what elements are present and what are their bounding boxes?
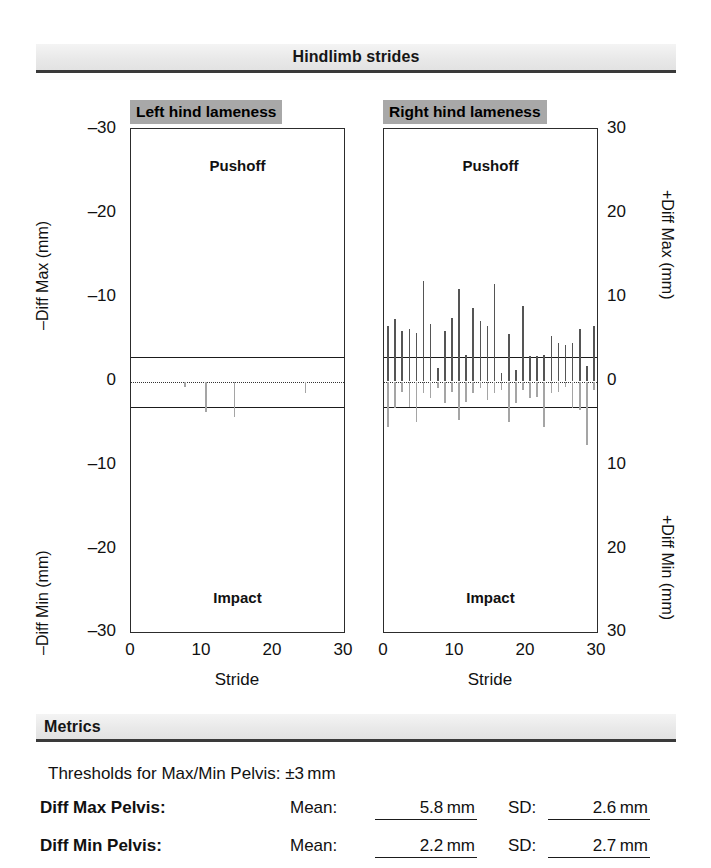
stem-diff-min: [515, 382, 517, 404]
stem-diff-max: [458, 289, 460, 381]
stem-diff-max: [501, 373, 503, 381]
xlabel-left-30: 30: [323, 640, 363, 660]
threshold-line-upper-left: [131, 357, 344, 358]
stem-diff-max: [480, 321, 482, 381]
panel-title-left: Left hind lameness: [130, 100, 282, 124]
stem-diff-min: [430, 382, 432, 399]
ylabel-left--20: –20: [58, 202, 116, 222]
ylabel-left-0: 0: [58, 370, 116, 390]
metrics-sd-label-max: SD:: [508, 798, 536, 818]
stem-diff-max: [444, 331, 446, 381]
stem-diff-max: [465, 355, 467, 382]
ylabel-right-20: 20: [607, 202, 657, 222]
stem-diff-min: [184, 382, 186, 387]
ytick-left: [130, 550, 131, 551]
metrics-value: 2.2 mm: [375, 836, 477, 858]
stem-diff-max: [401, 331, 403, 381]
ytick-right: [597, 407, 598, 408]
stem-diff-max: [529, 356, 531, 381]
stem-diff-max: [593, 326, 595, 381]
stem-diff-min: [458, 382, 460, 420]
stem-diff-max: [409, 329, 411, 381]
ylabel-right-min-20: 20: [607, 538, 657, 558]
ytick-left: [130, 214, 131, 215]
xtick-right: [456, 632, 457, 633]
metrics-row-diff-max: Diff Max Pelvis:: [40, 798, 166, 818]
metrics-mean-label-min: Mean:: [290, 836, 337, 856]
ytick-right: [597, 214, 598, 215]
metrics-mean-value-max: 5.8 mm: [375, 798, 477, 820]
ylabel-right-30: 30: [607, 118, 657, 138]
ytick-right: [597, 357, 598, 358]
metrics-mean-label-max: Mean:: [290, 798, 337, 818]
ylabel-right-0: 0: [607, 370, 657, 390]
page-title: Hindlimb strides: [293, 48, 420, 66]
metrics-row-label: Diff Max Pelvis:: [40, 798, 166, 817]
zone-label-pushoff-left: Pushoff: [131, 157, 344, 174]
stem-diff-min: [579, 382, 581, 410]
ylabel-left-min-10: –10: [58, 454, 116, 474]
xtick-right: [598, 632, 599, 633]
stem-diff-max: [515, 370, 517, 382]
stem-diff-min: [437, 382, 439, 389]
stem-diff-min: [487, 382, 489, 400]
stem-diff-min: [536, 382, 538, 397]
stem-diff-min: [394, 382, 396, 409]
metrics-value: 2.7 mm: [548, 836, 650, 858]
stem-diff-min: [480, 382, 482, 389]
stem-diff-min: [451, 382, 453, 392]
stem-diff-min: [501, 382, 503, 390]
plot-right-hind: Pushoff Impact: [383, 128, 598, 633]
metrics-sd-value-max: 2.6 mm: [548, 798, 650, 820]
stem-diff-min: [423, 382, 425, 394]
ytick-left: [130, 298, 131, 299]
axis-title-stride-left: Stride: [187, 670, 287, 690]
stem-diff-min: [444, 382, 446, 404]
ytick-left: [130, 382, 131, 383]
ylabel-right-min-10: 10: [607, 454, 657, 474]
metrics-sd-label-min: SD:: [508, 836, 536, 856]
stem-diff-max: [487, 326, 489, 381]
plot-left-hind: Pushoff Impact: [130, 128, 345, 633]
xtick-left: [274, 632, 275, 633]
xlabel-right-20: 20: [505, 640, 545, 660]
stem-diff-min: [416, 382, 418, 422]
xtick-left: [132, 632, 133, 633]
ytick-right: [597, 633, 598, 634]
ylabel-right-10: 10: [607, 286, 657, 306]
stem-diff-min: [522, 382, 524, 390]
stem-diff-max: [536, 356, 538, 381]
metrics-row-diff-min: Diff Min Pelvis:: [40, 836, 162, 856]
stem-diff-min: [593, 382, 595, 390]
zero-line-left: [131, 382, 344, 383]
stem-diff-max: [508, 334, 510, 381]
stem-diff-max: [565, 345, 567, 382]
ylabel-left--30: –30: [58, 118, 116, 138]
metrics-sd-value-min: 2.7 mm: [548, 836, 650, 858]
stem-diff-max: [572, 343, 574, 382]
ytick-right: [597, 466, 598, 467]
stem-diff-min: [551, 382, 553, 394]
axis-title-diff-max-right: +Diff Max (mm): [658, 190, 676, 299]
ytick-left: [130, 407, 131, 408]
stem-diff-max: [494, 284, 496, 381]
xtick-right: [527, 632, 528, 633]
zone-label-pushoff-right: Pushoff: [384, 157, 597, 174]
xlabel-right-0: 0: [363, 640, 403, 660]
header-bar: Hindlimb strides: [36, 44, 676, 73]
ytick-left: [130, 466, 131, 467]
threshold-text: Thresholds for Max/Min Pelvis: ±3 mm: [48, 764, 336, 784]
axis-title-diff-min-left: –Diff Min (mm): [34, 550, 52, 655]
ylabel-left-min-20: –20: [58, 538, 116, 558]
stem-diff-max: [451, 318, 453, 382]
stem-diff-max: [394, 319, 396, 381]
stem-diff-min: [205, 382, 207, 412]
ytick-right: [597, 130, 598, 131]
stem-diff-max: [551, 336, 553, 381]
ytick-right: [597, 382, 598, 383]
xtick-left: [203, 632, 204, 633]
xtick-left: [345, 632, 346, 633]
xlabel-right-10: 10: [434, 640, 474, 660]
stem-diff-min: [529, 382, 531, 399]
stem-diff-max: [472, 308, 474, 382]
